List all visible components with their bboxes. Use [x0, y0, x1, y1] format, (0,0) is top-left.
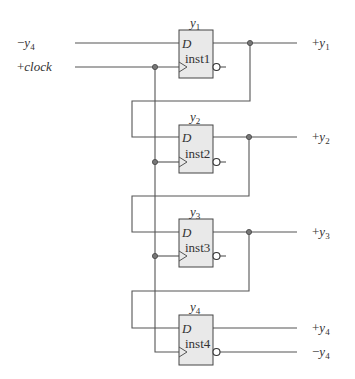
output-label-y3: +y3 [312, 224, 330, 241]
ff-title: y1 [188, 15, 200, 32]
junction-dot [246, 229, 251, 234]
junction-dot [152, 253, 157, 258]
ff-title: y3 [188, 204, 201, 221]
d-input-label: D [181, 321, 192, 336]
instance-label: inst4 [185, 336, 211, 351]
junction-dot [246, 134, 251, 139]
instance-label: inst1 [185, 51, 210, 66]
junction-dot [152, 64, 157, 69]
circuit-diagram: −y4 +clock y1 D inst1 +y1 y2 D inst2 +y2… [0, 0, 355, 379]
output-label-not-y4: −y4 [312, 344, 330, 361]
output-label-y1: +y1 [312, 35, 330, 52]
inversion-bubble-icon [213, 253, 220, 260]
instance-label: inst3 [185, 240, 210, 255]
inversion-bubble-icon [213, 349, 220, 356]
d-input-label: D [181, 130, 192, 145]
input-label-clock: +clock [17, 59, 52, 74]
d-input-label: D [181, 36, 192, 51]
output-label-y4: +y4 [312, 320, 330, 337]
wire-clock-bus [155, 67, 179, 352]
ff-title: y4 [188, 299, 201, 316]
inversion-bubble-icon [213, 64, 220, 71]
input-label-not-y4: −y4 [17, 35, 35, 52]
ff-title: y2 [188, 109, 200, 126]
output-label-y2: +y2 [312, 129, 330, 146]
junction-dot [247, 40, 252, 45]
junction-dot [152, 159, 157, 164]
instance-label: inst2 [185, 146, 210, 161]
inversion-bubble-icon [213, 159, 220, 166]
d-input-label: D [181, 225, 192, 240]
